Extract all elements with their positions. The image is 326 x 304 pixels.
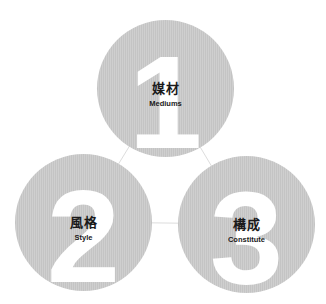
title-en: Style	[15, 233, 152, 242]
title-en: Constitute	[178, 235, 315, 244]
title-zh: 媒材	[97, 78, 234, 97]
title-en: Mediums	[97, 99, 234, 108]
title-zh: 風格	[15, 212, 152, 231]
label-constitute: 構成 Constitute	[178, 214, 315, 244]
circle-mediums: 1 媒材 Mediums	[97, 20, 234, 157]
label-style: 風格 Style	[15, 212, 152, 242]
label-mediums: 媒材 Mediums	[97, 78, 234, 108]
title-zh: 構成	[178, 214, 315, 233]
circle-constitute: 3 構成 Constitute	[178, 156, 315, 293]
circle-style: 2 風格 Style	[15, 154, 152, 291]
